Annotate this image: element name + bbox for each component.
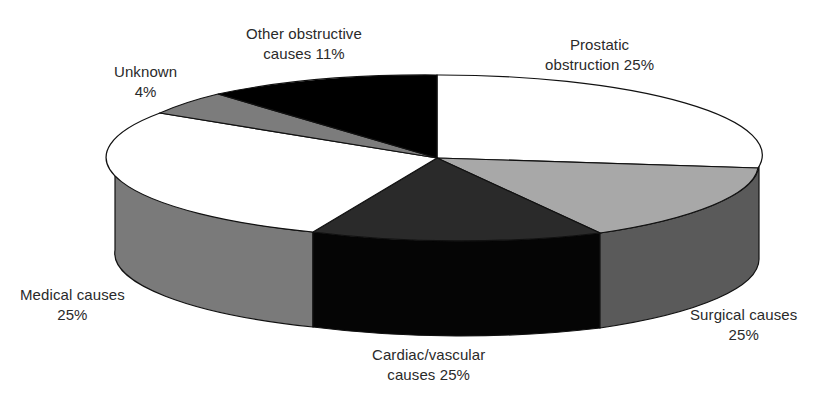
label-other-obstructive: Other obstructive causes 11% (246, 24, 362, 64)
label-prostatic: Prostatic obstruction 25% (545, 35, 654, 75)
label-unknown: Unknown 4% (114, 62, 177, 102)
slice-side-cardiac (313, 232, 600, 336)
label-medical: Medical causes 25% (20, 285, 125, 325)
label-surgical: Surgical causes 25% (690, 305, 797, 345)
label-cardiac-vascular: Cardiac/vascular causes 25% (372, 345, 485, 385)
pie-chart: Other obstructive causes 11% Unknown 4% … (0, 0, 832, 400)
slice-top-prostatic (437, 75, 762, 168)
